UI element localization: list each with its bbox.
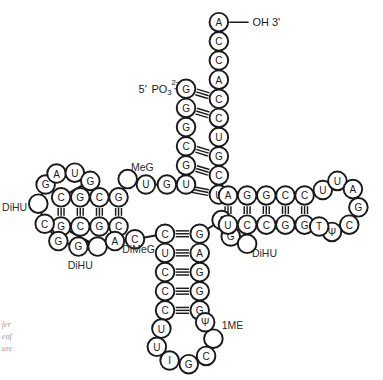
nucleotide-c: C [177, 137, 196, 156]
nucleotide-c: C [210, 90, 229, 109]
nucleotide-label: U [319, 185, 326, 196]
nucleotide-label: U [224, 220, 231, 231]
nucleotide-label: C [346, 220, 353, 231]
nucleotide-c: C [210, 51, 229, 70]
nucleotide-g: G [69, 237, 88, 256]
nucleotide-label: A [216, 75, 223, 86]
nucleotide-label: A [112, 236, 119, 247]
nucleotide-c: C [156, 224, 175, 243]
nucleotide-label: C [161, 305, 168, 316]
nucleotide-c: C [52, 188, 71, 207]
nucleotide-label: C [263, 220, 270, 231]
nucleotide-label: C [282, 190, 289, 201]
nucleotide-a: A [344, 180, 363, 199]
nucleotide-label: C [161, 229, 168, 240]
nucleotide-label: G [354, 202, 362, 213]
caption-line-3: ure [2, 344, 13, 353]
nucleotide-label: G [57, 221, 65, 232]
nucleotide-label: C [161, 286, 168, 297]
nucleotide-label: C [182, 141, 189, 152]
nucleotide-u: U [210, 128, 229, 147]
nucleotide-label: C [215, 170, 222, 181]
nucleotide-unlabeled [88, 237, 107, 256]
nucleotide-label: G [196, 286, 204, 297]
label-dihu-right: DiHU [252, 248, 277, 259]
nucleotide-label: U [161, 248, 168, 259]
nucleotide-label: G [301, 220, 309, 231]
nucleotide-c: C [210, 32, 229, 51]
nucleotide-label: C [202, 351, 209, 362]
nucleotide-label: A [196, 248, 203, 259]
three-prime-label: OH 3' [253, 16, 281, 28]
nucleotide-a: A [219, 186, 238, 205]
nucleotide-label: G [215, 151, 223, 162]
caption-layer: fereafure [2, 320, 14, 353]
nucleotide-label: C [41, 219, 48, 230]
nucleotide-label: U [71, 168, 78, 179]
nucleotide-label: C [244, 220, 251, 231]
five-prime-prefix-label: 5' [139, 83, 147, 95]
nucleotide-g: G [81, 172, 100, 191]
nucleotide-label: U [153, 342, 160, 353]
nucleotide-a: A [47, 164, 66, 183]
nucleotide-c: C [210, 109, 229, 128]
nucleotide-label: G [185, 359, 193, 370]
nucleotide-g: G [177, 156, 196, 175]
nucleotide-label: G [42, 179, 50, 190]
nucleotide-c: C [197, 347, 216, 366]
nucleotide-label: C [301, 190, 308, 201]
nucleotide-circle [88, 237, 107, 256]
nucleotide-label: C [77, 221, 84, 232]
nucleotide-label: G [76, 192, 84, 203]
label-1me: 1ME [222, 320, 244, 331]
nucleotide-g: G [190, 263, 209, 282]
nucleotide-c: C [238, 215, 257, 234]
nucleotide-a: A [210, 13, 229, 32]
nucleotide-label: G [163, 179, 171, 190]
nucleotide-u: U [219, 215, 238, 234]
nucleotide-circle [29, 194, 48, 213]
nucleotide-g: G [49, 232, 68, 251]
nucleotide-label: C [215, 94, 222, 105]
nucleotide-label: C [215, 55, 222, 66]
nucleotide-c: C [35, 214, 54, 233]
nucleotide-g: G [179, 355, 198, 374]
nucleotide-label: A [225, 190, 232, 201]
nucleotide-label: T [316, 221, 322, 232]
nucleotide-label: G [54, 236, 62, 247]
nucleotide-g: G [190, 282, 209, 301]
nucleotide-c: C [210, 166, 229, 185]
nucleotide-a: A [210, 70, 229, 89]
nucleotide-i: I [160, 351, 179, 370]
nucleotide-label: C [161, 267, 168, 278]
nucleotide-label: Ψ [201, 317, 209, 328]
nucleotide-label: G [262, 190, 270, 201]
caption-line-1: fer [2, 320, 12, 329]
nucleotide-g: G [90, 217, 109, 236]
nucleotide-label: G [243, 190, 251, 201]
nucleotide-label: A [350, 184, 357, 195]
nucleotide-label: I [168, 355, 171, 366]
nucleotide-label: C [57, 192, 64, 203]
nucleotide-g: G [177, 99, 196, 118]
nucleotide-g: G [177, 118, 196, 137]
nucleotide-g: G [210, 147, 229, 166]
nucleotide-c: C [71, 217, 90, 236]
nucleotide-label: A [53, 169, 60, 180]
nucleotide-c: C [156, 301, 175, 320]
nucleotide-t: T [310, 217, 329, 236]
nucleotide-label: G [282, 220, 290, 231]
nucleotide-label: G [182, 84, 190, 95]
nucleotide-g: G [190, 224, 209, 243]
nucleotide-unlabeled [29, 194, 48, 213]
label-dihu-left: DiHU [2, 202, 27, 213]
nucleotide-label: G [75, 241, 83, 252]
nucleotide-g: G [238, 186, 257, 205]
nucleotide-g: G [71, 188, 90, 207]
nucleotide-c: C [156, 282, 175, 301]
nucleotide-g: G [257, 186, 276, 205]
nucleotide-label: U [182, 179, 189, 190]
nucleotide-g: G [276, 215, 295, 234]
nucleotide-label: C [215, 113, 222, 124]
nucleotide-u: U [137, 175, 156, 194]
